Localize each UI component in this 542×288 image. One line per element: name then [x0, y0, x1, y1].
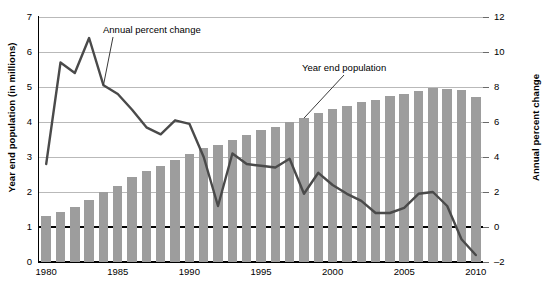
annotation-label-annual-percent-change: Annual percent change: [103, 24, 201, 35]
line-series-annual-percent-change: [46, 38, 476, 255]
annotation-leader-line-pop: [304, 75, 344, 118]
annotation-leader-line-apc: [103, 37, 113, 85]
line-series-overlay: [0, 0, 542, 288]
annotation-label-year-end-population: Year end population: [302, 62, 386, 73]
chart-container: Year end population (in millions) Annual…: [0, 0, 542, 288]
